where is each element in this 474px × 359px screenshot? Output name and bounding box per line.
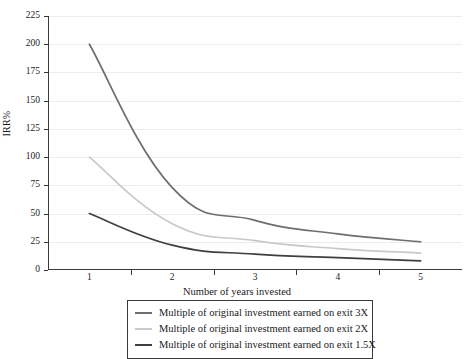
y-tick-label: 225 (26, 11, 40, 21)
y-tick-mark (44, 101, 48, 102)
y-tick-mark (44, 16, 48, 17)
y-tick-label: 0 (35, 265, 40, 275)
y-tick-label: 200 (26, 39, 40, 49)
x-tick-label: 2 (170, 272, 175, 282)
series-lines (48, 16, 462, 270)
y-tick-label: 100 (26, 152, 40, 162)
y-tick-mark (44, 242, 48, 243)
y-tick-mark (44, 214, 48, 215)
y-tick-mark (44, 157, 48, 158)
legend-label: Multiple of original investment earned o… (159, 323, 368, 335)
legend-label: Multiple of original investment earned o… (159, 339, 376, 351)
x-tick-label: 5 (418, 272, 423, 282)
legend-item[interactable]: Multiple of original investment earned o… (135, 321, 365, 337)
legend-item[interactable]: Multiple of original investment earned o… (135, 337, 365, 353)
legend-line-swatch (135, 344, 152, 346)
y-tick-mark (44, 129, 48, 130)
x-axis-title: Number of years invested (0, 286, 474, 297)
y-tick-label: 125 (26, 124, 40, 134)
chart-figure: 0255075100125150175200225 IRR% 12345 Num… (0, 0, 474, 359)
y-axis-tick-labels: 0255075100125150175200225 (0, 0, 46, 359)
y-tick-label: 75 (31, 181, 41, 191)
y-tick-label: 150 (26, 96, 40, 106)
legend-label: Multiple of original investment earned o… (159, 307, 368, 319)
chart-legend: Multiple of original investment earned o… (127, 300, 373, 359)
y-tick-label: 25 (31, 237, 41, 247)
series-line (89, 157, 420, 253)
x-tick-label: 3 (253, 272, 258, 282)
x-tick-label: 4 (335, 272, 340, 282)
x-tick-label: 1 (87, 272, 92, 282)
y-axis-title: IRR% (1, 111, 12, 137)
y-tick-mark (44, 270, 48, 271)
y-tick-mark (44, 72, 48, 73)
plot-area (48, 16, 462, 270)
series-line (89, 44, 420, 242)
y-tick-mark (44, 185, 48, 186)
legend-line-swatch (135, 328, 152, 330)
y-tick-label: 50 (31, 209, 41, 219)
y-tick-mark (44, 44, 48, 45)
legend-line-swatch (135, 312, 152, 314)
legend-item[interactable]: Multiple of original investment earned o… (135, 305, 365, 321)
y-tick-label: 175 (26, 68, 40, 78)
